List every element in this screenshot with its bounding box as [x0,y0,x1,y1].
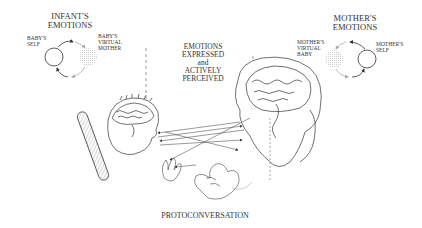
hands [162,158,252,199]
mother-virtual-baby-circle [325,50,343,68]
baby-virtual-line3: MOTHER [98,45,122,51]
mother-emotions-title: MOTHER'S EMOTIONS [325,14,385,32]
infant-title-line2: EMOTIONS [40,21,100,30]
center-caption: EMOTIONS EXPRESSED and ACTIVELY PERCEIVE… [168,43,238,82]
mother-self-circle [358,50,376,68]
infant-head [108,94,159,155]
mother-virtual-baby-label: MOTHER'S VIRTUAL BABY [297,39,324,57]
center-line5: PERCEIVED [168,75,238,83]
mother-self-label: MOTHER'S SELF [376,41,403,53]
baby-self-label: BABY'S SELF [27,35,46,47]
baby-self-circle [45,48,63,66]
baby-self-line2: SELF [27,41,46,47]
diagram-canvas [0,0,422,228]
protoconversation-caption: PROTOCONVERSATION [150,212,260,220]
infant-emotion-cycle [45,41,97,77]
mother-self-line2: SELF [376,47,403,53]
mother-emotion-cycle [325,42,376,77]
baby-virtual-mother-label: BABY'S VIRTUAL MOTHER [98,33,122,51]
mother-title-line2: EMOTIONS [325,23,385,32]
infant-cushion [76,110,110,181]
mother-virtual-line3: BABY [297,51,324,57]
infant-emotions-title: INFANT'S EMOTIONS [40,12,100,30]
baby-virtual-mother-circle [79,48,97,66]
